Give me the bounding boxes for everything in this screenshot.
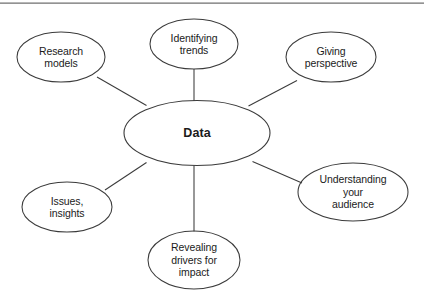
ellipse-revealing-drivers-for-impact[interactable]	[148, 231, 240, 289]
ellipse-research-models[interactable]	[17, 32, 105, 82]
connector-giving-perspective	[249, 81, 298, 107]
connector-group	[97, 69, 302, 232]
diagram-canvas: Data Research models Identifying trends …	[0, 0, 424, 303]
ellipse-data-center[interactable]	[124, 101, 270, 166]
ellipse-giving-perspective[interactable]	[286, 32, 376, 82]
ellipse-issues-insights[interactable]	[22, 182, 112, 232]
connector-research-models	[97, 77, 147, 106]
ellipse-identifying-trends[interactable]	[150, 19, 238, 69]
satellite-ellipse-group	[17, 19, 408, 289]
connector-issues-insights	[105, 163, 147, 191]
ellipse-understanding-your-audience[interactable]	[298, 163, 408, 221]
connector-understanding-your-audience	[253, 162, 303, 184]
diagram-graphics	[0, 0, 424, 303]
